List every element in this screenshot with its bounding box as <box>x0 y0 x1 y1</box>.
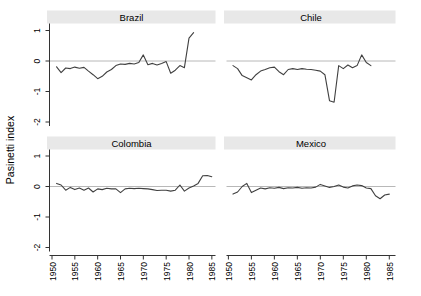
series-line-colombia <box>57 176 212 193</box>
panel-title-mexico: Mexico <box>226 137 396 150</box>
x-tick-label: 1955 <box>70 262 80 281</box>
y-tick-label: 1 <box>32 153 42 158</box>
x-tick-label: 1975 <box>339 262 349 281</box>
panel-title-brazil: Brazil <box>47 11 216 24</box>
panel-title-chile: Chile <box>226 11 396 24</box>
y-tick-label: 1 <box>32 28 42 33</box>
x-tick-label: 1985 <box>385 262 395 281</box>
x-tick-label: 1980 <box>185 262 195 281</box>
x-tick-label: 1980 <box>362 262 372 281</box>
x-tick-label: 1960 <box>270 262 280 281</box>
series-line-brazil <box>57 33 194 79</box>
x-tick-label: 1970 <box>139 262 149 281</box>
panel-title-colombia: Colombia <box>47 137 216 150</box>
series-line-mexico <box>233 183 389 198</box>
y-tick-label: 0 <box>32 58 42 63</box>
y-tick-label: -1 <box>32 213 42 221</box>
x-tick-label: 1960 <box>93 262 103 281</box>
pasinetti-index-chart: 10-1-210-1-21950195519601965197019751980… <box>0 0 421 296</box>
y-tick-label: 0 <box>32 184 42 189</box>
x-tick-label: 1955 <box>247 262 257 281</box>
x-tick-label: 1965 <box>293 262 303 281</box>
x-tick-label: 1950 <box>224 262 234 281</box>
x-tick-label: 1985 <box>207 262 217 281</box>
y-tick-label: -2 <box>32 118 42 126</box>
y-axis-label: Pasinetti index <box>4 116 16 184</box>
x-tick-label: 1970 <box>316 262 326 281</box>
series-line-chile <box>233 55 371 102</box>
x-tick-label: 1950 <box>48 262 58 281</box>
y-tick-label: -1 <box>32 87 42 95</box>
y-tick-label: -2 <box>32 243 42 251</box>
x-tick-label: 1965 <box>116 262 126 281</box>
x-tick-label: 1975 <box>162 262 172 281</box>
